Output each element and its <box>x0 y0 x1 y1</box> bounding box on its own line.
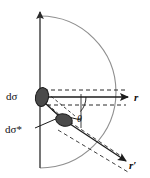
label-dsigma-star: dσ* <box>5 124 22 135</box>
ray-r-prime <box>64 120 126 161</box>
dashed-scattered-lower <box>58 130 128 172</box>
scattering-geometry-diagram: dσ dσ* r r′ θ <box>0 0 150 178</box>
label-theta: θ <box>77 114 82 124</box>
dsigma-star-leader-line <box>35 118 58 128</box>
label-r-prime: r′ <box>129 160 136 171</box>
label-r: r <box>134 92 138 103</box>
diagram-canvas <box>0 0 150 178</box>
label-dsigma: dσ <box>6 91 17 102</box>
